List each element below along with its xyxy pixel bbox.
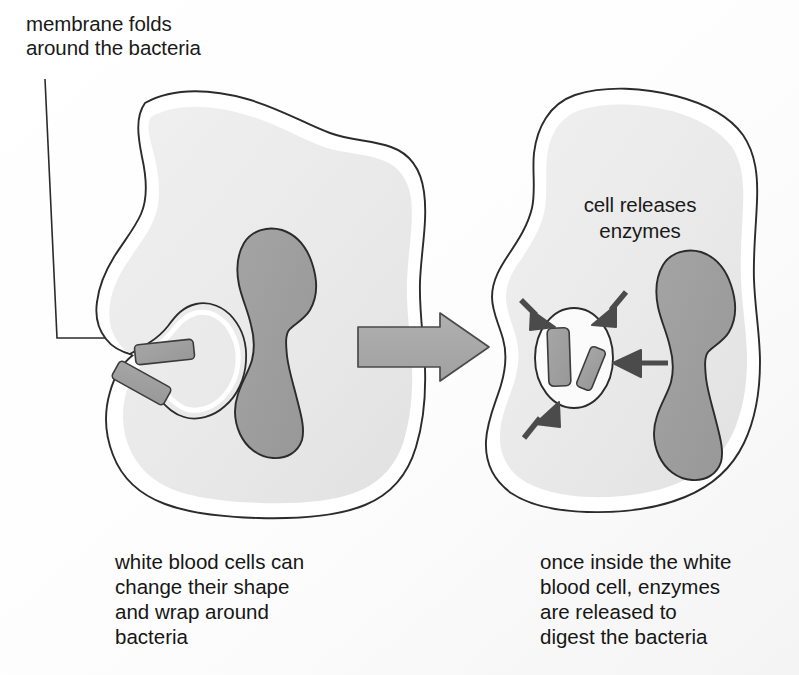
phagocytosis-diagram: membrane folds around the bacteria cell …	[0, 0, 799, 675]
left-caption-line4: bacteria	[115, 625, 189, 648]
bacterium-rod	[547, 328, 571, 387]
right-caption-line3: are released to	[540, 600, 677, 623]
left-caption-line2: change their shape	[115, 575, 289, 598]
right-caption-line2: blood cell, enzymes	[540, 575, 720, 598]
enzyme-label-line2: enzymes	[599, 219, 680, 242]
right-caption-line1: once inside the white	[540, 550, 731, 573]
enzyme-label-line1: cell releases	[584, 193, 697, 216]
left-caption-line3: and wrap around	[115, 600, 269, 623]
left-white-blood-cell	[96, 91, 425, 518]
right-caption-line4: digest the bacteria	[540, 625, 708, 648]
left-caption-line1: white blood cells can	[114, 550, 304, 573]
callout-label-line1: membrane folds	[26, 12, 172, 35]
diagram-canvas: membrane folds around the bacteria cell …	[0, 0, 799, 675]
callout-label-line2: around the bacteria	[26, 36, 201, 59]
